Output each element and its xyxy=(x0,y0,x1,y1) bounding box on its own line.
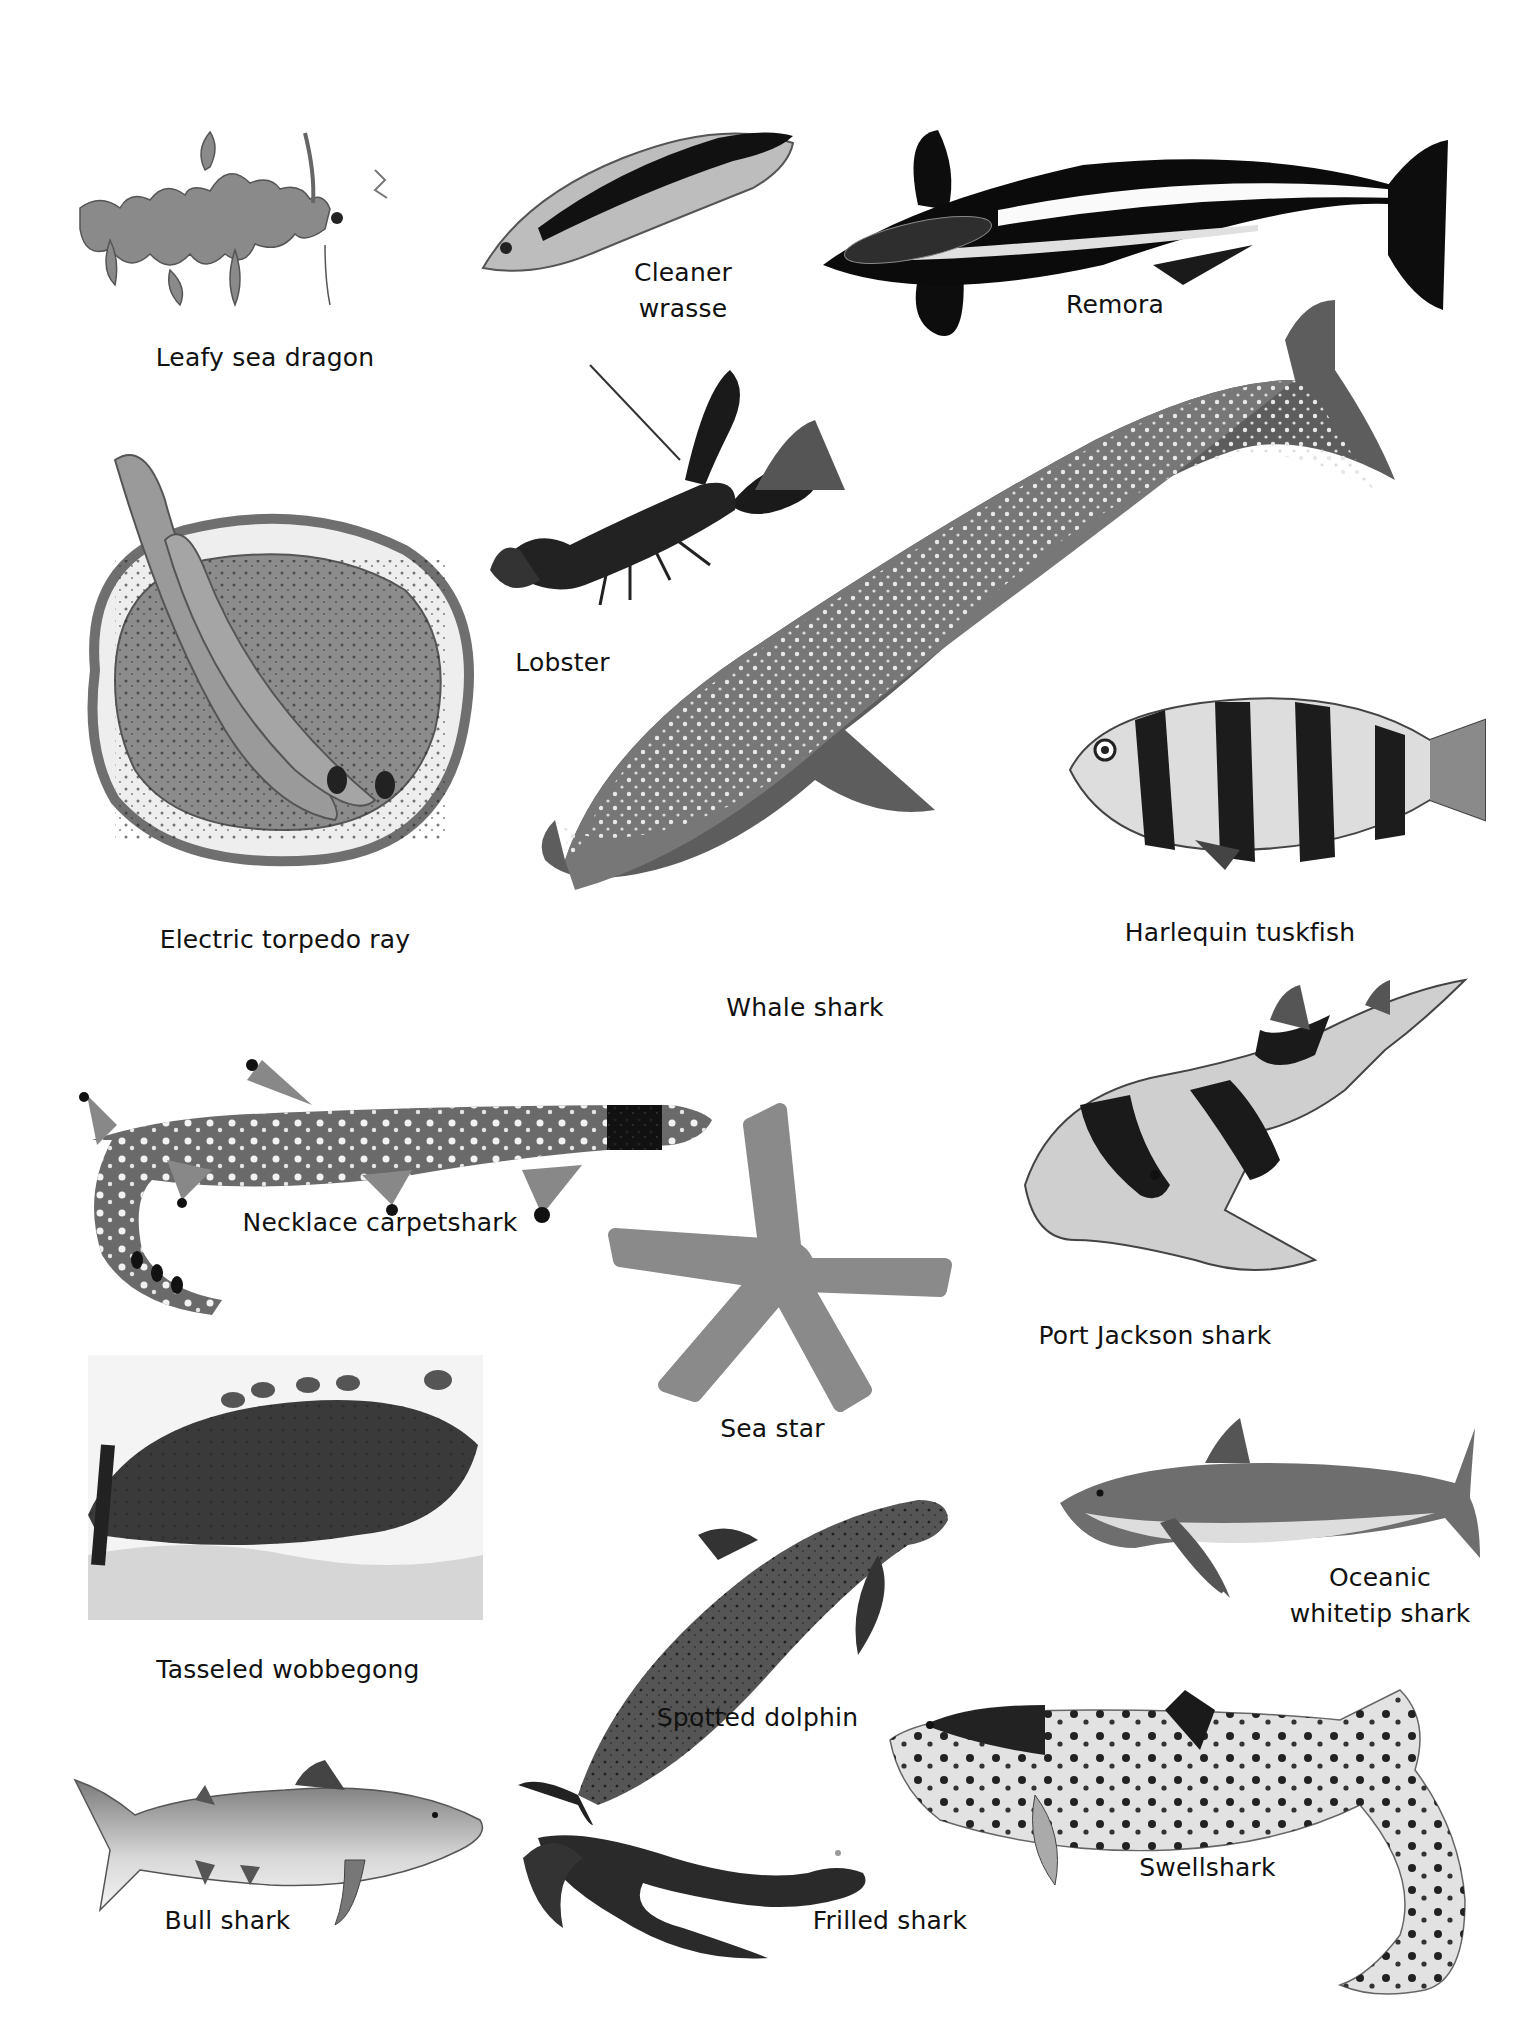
cleaner-wrasse-illustration xyxy=(478,128,798,273)
label-oceanic-whitetip-shark-line1: Oceanic xyxy=(1280,1560,1480,1596)
label-spotted-dolphin: Spotted dolphin xyxy=(645,1700,870,1736)
harlequin-tuskfish-illustration xyxy=(1065,690,1490,870)
label-cleaner-wrasse-line1: Cleaner xyxy=(618,255,748,291)
swellshark-illustration xyxy=(885,1685,1485,1995)
label-oceanic-whitetip-shark-line2: whitetip shark xyxy=(1280,1596,1480,1632)
label-tasseled-wobbegong: Tasseled wobbegong xyxy=(148,1652,428,1688)
label-sea-star: Sea star xyxy=(705,1411,840,1447)
label-whale-shark: Whale shark xyxy=(705,990,905,1026)
sea-star-illustration xyxy=(605,1105,950,1410)
label-swellshark: Swellshark xyxy=(1130,1850,1285,1886)
label-necklace-carpetshark: Necklace carpetshark xyxy=(240,1205,520,1241)
port-jackson-shark-illustration xyxy=(1020,980,1470,1290)
label-oceanic-whitetip-shark: Oceanic whitetip shark xyxy=(1280,1560,1480,1632)
label-harlequin-tuskfish: Harlequin tuskfish xyxy=(1110,915,1370,951)
leafy-sea-dragon-illustration xyxy=(75,130,425,315)
label-port-jackson-shark: Port Jackson shark xyxy=(1005,1318,1305,1354)
label-electric-torpedo-ray: Electric torpedo ray xyxy=(155,922,415,958)
tasseled-wobbegong-illustration xyxy=(88,1355,483,1620)
bull-shark-illustration xyxy=(75,1760,490,1925)
frilled-shark-illustration xyxy=(518,1828,868,1963)
label-bull-shark: Bull shark xyxy=(155,1903,300,1939)
label-leafy-sea-dragon: Leafy sea dragon xyxy=(150,340,380,376)
electric-torpedo-ray-illustration xyxy=(75,450,480,875)
